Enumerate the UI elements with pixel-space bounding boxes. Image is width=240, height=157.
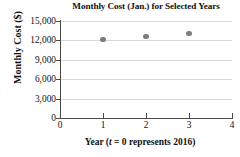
y-tick-label-6000: 6,000 xyxy=(1,74,56,84)
y-tick-label-9000: 9,000 xyxy=(1,55,56,65)
y-tick-3000 xyxy=(56,99,61,100)
y-tick-label-3000: 3,000 xyxy=(1,94,56,104)
gridline-9000 xyxy=(60,60,232,61)
data-point[interactable] xyxy=(186,31,191,36)
y-tick-label-15000: 15,000 xyxy=(1,16,56,26)
chart-figure: Monthly Cost (Jan.) for Selected Years M… xyxy=(0,0,240,157)
y-tick-12000 xyxy=(56,40,61,41)
y-tick-6000 xyxy=(56,79,61,80)
chart-title: Monthly Cost (Jan.) for Selected Years xyxy=(52,1,240,11)
x-tick-label-4: 4 xyxy=(222,120,240,130)
gridline-6000 xyxy=(60,79,232,80)
gridline-3000 xyxy=(60,99,232,100)
x-tick-label-3: 3 xyxy=(179,120,199,130)
y-tick-label-12000: 12,000 xyxy=(1,35,56,45)
x-tick-2 xyxy=(146,113,147,119)
x-tick-label-0: 0 xyxy=(50,120,70,130)
y-tick-label-0: 0 xyxy=(1,113,56,123)
x-tick-label-2: 2 xyxy=(136,120,156,130)
data-point[interactable] xyxy=(143,34,148,39)
y-tick-15000 xyxy=(56,21,61,22)
x-tick-3 xyxy=(189,113,190,119)
y-tick-9000 xyxy=(56,60,61,61)
x-tick-label-1: 1 xyxy=(93,120,113,130)
x-axis-title-prefix: Year ( xyxy=(85,137,109,147)
x-tick-4 xyxy=(232,113,233,119)
x-tick-1 xyxy=(103,113,104,119)
y-axis-title: Monthly Cost ($) xyxy=(12,0,23,100)
gridline-12000 xyxy=(60,40,232,41)
x-axis-title-suffix: = 0 represents 2016) xyxy=(112,137,196,147)
data-point[interactable] xyxy=(100,37,105,42)
plot-area xyxy=(60,21,232,118)
x-tick-0 xyxy=(60,113,61,119)
x-axis-title: Year (t = 0 represents 2016) xyxy=(40,137,240,147)
gridline-15000 xyxy=(60,21,232,22)
